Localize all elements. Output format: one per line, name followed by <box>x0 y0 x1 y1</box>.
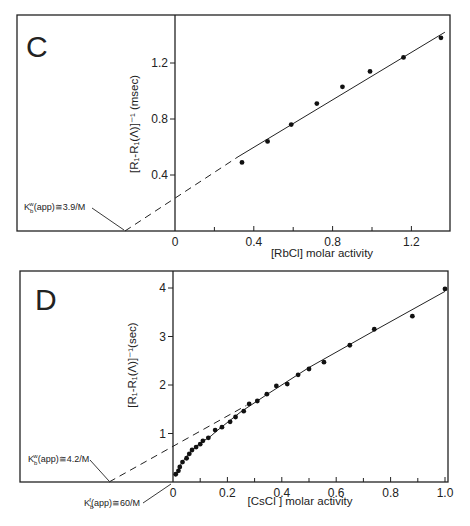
data-point <box>264 392 269 397</box>
panel-d-leader-f <box>143 484 171 503</box>
x-tick-label: 0 <box>172 235 179 249</box>
panel-d-data-points <box>173 287 447 477</box>
y-tick-label: 1 <box>159 427 166 441</box>
data-point <box>194 445 199 450</box>
data-point <box>213 428 218 433</box>
data-point <box>274 384 279 389</box>
y-tick-label: 0.8 <box>151 112 168 126</box>
data-point <box>201 438 206 443</box>
data-point <box>401 55 406 60</box>
panel-d: D 00.20.40.60.81.01234 [R₁-R₁(Λ)]⁻¹(sec)… <box>20 271 454 510</box>
y-tick-label: 1.2 <box>151 56 168 70</box>
panel-c-kb-label: Kbw(app)≅3.9/M <box>24 201 85 214</box>
panel-c-annotation: Kbw(app)≅3.9/M <box>24 201 124 230</box>
panel-d-annotation-w: Kbw(app)≅4.2/M <box>28 453 109 481</box>
data-point <box>410 314 415 319</box>
data-point <box>220 425 225 430</box>
data-point <box>307 367 312 372</box>
data-point <box>314 101 319 106</box>
y-tick-label: 2 <box>159 378 166 392</box>
data-point <box>368 69 373 74</box>
y-tick-label: 4 <box>159 281 166 295</box>
panel-d-kbw-label: Kbw(app)≅4.2/M <box>28 453 89 466</box>
data-point <box>265 139 270 144</box>
panel-c-data-points <box>240 35 444 164</box>
panel-d-y-axis-label: [R₁-R₁(Λ)]⁻¹(sec) <box>126 322 138 407</box>
x-tick-label: 1.2 <box>403 235 420 249</box>
x-tick-label: 1.0 <box>437 486 454 500</box>
data-point <box>347 343 352 348</box>
x-tick-label: 0 <box>170 486 177 500</box>
panel-c-frame <box>17 15 450 231</box>
data-point <box>187 451 192 456</box>
panel-d-x-axis-label: [CsCl ] molar activity <box>248 495 353 507</box>
panel-c-y-axis-label: [R₁-R₁(Λ)]⁻¹ (msec) <box>128 75 140 173</box>
extrapolated-fit-line <box>125 157 238 231</box>
data-point <box>443 287 448 292</box>
panel-d-leader-w <box>90 460 109 481</box>
data-point <box>240 160 245 165</box>
y-tick-label: 3 <box>159 330 166 344</box>
fit-line <box>238 32 445 157</box>
x-tick-label: 0.2 <box>219 486 236 500</box>
data-point <box>190 448 195 453</box>
data-point <box>206 435 211 440</box>
panel-d-kbf-label: Kbf(app)≅60/M <box>84 497 140 510</box>
panel-d-letter: D <box>35 283 57 316</box>
data-point <box>177 465 182 470</box>
panel-d-annotation-f: Kbf(app)≅60/M <box>84 484 171 510</box>
data-point <box>247 402 252 407</box>
data-point <box>255 399 260 404</box>
data-point <box>285 382 290 387</box>
panel-c: C 00.40.81.20.40.81.2 [R₁-R₁(Λ)]⁻¹ (msec… <box>17 15 450 259</box>
fit-curve <box>176 291 445 476</box>
panel-c-x-axis-label: [RbCl] molar activity <box>271 247 373 259</box>
data-point <box>322 360 327 365</box>
data-point <box>289 122 294 127</box>
data-point <box>372 327 377 332</box>
data-point <box>228 419 233 424</box>
data-point <box>184 456 189 461</box>
x-tick-label: 0.4 <box>245 235 262 249</box>
data-point <box>180 460 185 465</box>
panel-c-letter: C <box>26 30 48 63</box>
y-tick-label: 0.4 <box>151 168 168 182</box>
panel-d-ticks: 00.20.40.60.81.01234 <box>159 281 453 500</box>
data-point <box>233 415 238 420</box>
panel-c-leader-line <box>92 208 124 230</box>
panel-c-ticks: 00.40.81.20.40.81.2 <box>151 56 420 249</box>
data-point <box>340 84 345 89</box>
data-point <box>439 35 444 40</box>
x-tick-label: 0.8 <box>382 486 399 500</box>
data-point <box>296 372 301 377</box>
panel-c-fit-lines <box>125 32 445 231</box>
panel-d-frame <box>20 271 448 482</box>
data-point <box>241 409 246 414</box>
figure: C 00.40.81.20.40.81.2 [R₁-R₁(Λ)]⁻¹ (msec… <box>0 0 470 526</box>
